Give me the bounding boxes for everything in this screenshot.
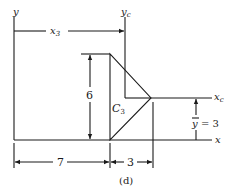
ybar-value: = 3 (201, 118, 219, 129)
centroid-diagram: y x yc xc x3 6 C3 y = 3 7 3 (d) (0, 0, 234, 192)
xc-axis-label: xc (214, 91, 224, 104)
y-axis-label: y (12, 6, 19, 17)
width-3-label: 3 (127, 156, 134, 169)
x3-label: x3 (50, 25, 61, 38)
centroid-label: C3 (112, 102, 125, 116)
height-label: 6 (86, 89, 93, 102)
figure-caption: (d) (119, 175, 133, 186)
triangle-shape (110, 54, 151, 140)
offset-7-label: 7 (57, 156, 64, 169)
ybar-label: y (191, 118, 198, 129)
x-axis-label: x (215, 134, 221, 145)
